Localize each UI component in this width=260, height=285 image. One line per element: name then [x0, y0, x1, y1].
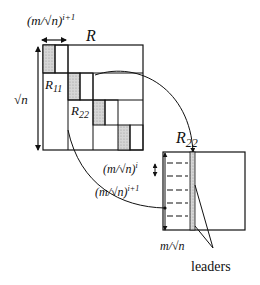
matrix-diagram: (m/√n)i+1 R √n R11 R22 R22 (m/√n)i (m/√n… [0, 0, 260, 285]
row-block-label: (m/√n)i [103, 161, 138, 176]
r11-label: R11 [44, 77, 62, 94]
r22-zoom-label: R22 [175, 129, 198, 150]
matrix-r-label: R [85, 27, 96, 44]
row-group-label: (m/√n)i+1 [95, 184, 139, 199]
sqrt-n-label: √n [14, 92, 28, 107]
leaders-label: leaders [191, 259, 231, 274]
leader-pointer-1 [195, 185, 213, 248]
matrix-r [43, 45, 143, 150]
column-height-label: m/√n [160, 239, 185, 253]
r22-inner-label: R22 [70, 103, 89, 120]
block-width-label: (m/√n)i+1 [27, 12, 75, 28]
